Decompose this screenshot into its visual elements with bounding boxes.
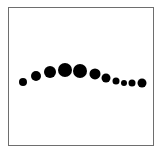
dot-7 [102,74,111,83]
dot-10 [129,79,136,86]
dot-6 [89,68,100,79]
dot-5 [73,64,87,78]
dot-1 [19,78,27,86]
dot-2 [31,71,41,81]
dot-11 [138,78,147,87]
dot-4 [58,63,72,77]
dot-8 [113,78,120,85]
dot-3 [44,66,56,78]
dot-sequence [0,0,164,155]
dot-9 [121,80,127,86]
